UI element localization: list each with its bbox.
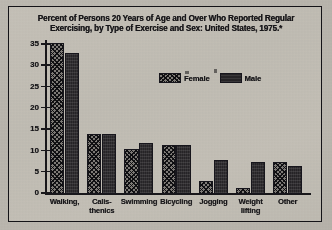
category-label-line: Swimming: [118, 198, 159, 207]
category-label-6: Other: [267, 198, 308, 207]
y-tick-label: 25: [30, 81, 39, 90]
y-tick-label: 20: [30, 103, 39, 112]
plot-area: 05101520253035 Walking,Calis-thenicsSwim…: [45, 40, 313, 194]
y-tick-label: 35: [30, 39, 39, 48]
category-label-line: lifting: [230, 207, 271, 216]
legend-item-female: Female: [159, 73, 210, 83]
bar-male-2: [139, 143, 153, 194]
bar-male-6: [288, 166, 302, 194]
scan-smudge: [185, 71, 189, 74]
bar-female-3: [162, 145, 176, 194]
y-tick-label: 30: [30, 60, 39, 69]
category-label-line: Bicycling: [156, 198, 197, 207]
chart-legend: Female Male: [159, 73, 261, 83]
bar-female-0: [50, 43, 64, 194]
y-tick-mark: [41, 43, 50, 44]
legend-label-male: Male: [245, 74, 261, 83]
chart-title: Percent of Persons 20 Years of Age and O…: [21, 14, 311, 33]
male-swatch-icon: [220, 73, 242, 83]
legend-item-male: Male: [220, 73, 261, 83]
category-label-2: Swimming: [118, 198, 159, 207]
y-tick-mark: [41, 128, 50, 129]
bar-male-0: [65, 53, 79, 194]
y-tick-label: 5: [35, 167, 39, 176]
category-label-line: thenics: [81, 207, 122, 216]
chart-frame: Percent of Persons 20 Years of Age and O…: [8, 6, 322, 222]
y-tick-mark: [41, 64, 50, 65]
category-label-3: Bicycling: [156, 198, 197, 207]
category-label-4: Jogging: [193, 198, 234, 207]
category-label-line: Walking,: [44, 198, 85, 207]
bar-female-6: [273, 162, 287, 194]
category-label-line: Jogging: [193, 198, 234, 207]
scan-smudge: [214, 69, 217, 73]
category-label-line: Other: [267, 198, 308, 207]
y-tick-label: 10: [30, 145, 39, 154]
y-tick-label: 15: [30, 124, 39, 133]
chart-title-line-1: Percent of Persons 20 Years of Age and O…: [38, 14, 295, 23]
bar-male-4: [214, 160, 228, 194]
y-tick-mark: [41, 192, 50, 193]
category-label-0: Walking,: [44, 198, 85, 207]
y-tick-label: 0: [35, 188, 39, 197]
bar-female-2: [124, 149, 138, 194]
bar-female-4: [199, 181, 213, 194]
y-tick-mark: [41, 150, 50, 151]
chart-title-line-2: Exercising, by Type of Exercise and Sex:…: [21, 24, 311, 34]
bar-male-3: [176, 145, 190, 194]
bar-female-5: [236, 188, 250, 194]
y-tick-mark: [41, 86, 50, 87]
y-tick-mark: [41, 171, 50, 172]
female-swatch-icon: [159, 73, 181, 83]
bar-female-1: [87, 134, 101, 194]
legend-label-female: Female: [184, 74, 210, 83]
bar-male-5: [251, 162, 265, 194]
category-label-5: Weightlifting: [230, 198, 271, 215]
category-label-1: Calis-thenics: [81, 198, 122, 215]
y-tick-mark: [41, 107, 50, 108]
bar-male-1: [102, 134, 116, 194]
